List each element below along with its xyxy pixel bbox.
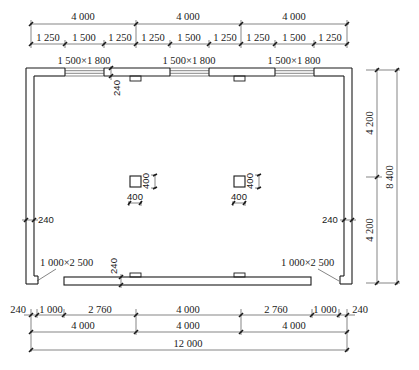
column-2: 400 400 [231,173,261,206]
bottom-overall-dim: 12 000 [174,338,203,349]
top-detail-dim: 1 500 [177,32,201,43]
left-wall-thickness-label: 240 [38,214,54,225]
top-wall-thickness-label: 240 [111,80,122,96]
column-width-label: 400 [127,191,143,202]
left-wall-thickness-dim: 240 [22,214,54,225]
bottom-detail-dim: 2 760 [88,304,112,315]
right-dimension-chain: 4 200 4 200 8 400 [364,68,400,285]
window-label: 1 500×1 800 [162,55,215,66]
right-wall-thickness-dim: 240 [322,214,356,225]
bottom-wall-thickness-dim: 240 [108,258,123,288]
bottom-detail-dim: 240 [10,304,26,315]
bottom-detail-dim: 240 [352,304,368,315]
bottom-detail-dim: 1 000 [313,304,337,315]
top-dim-2: 4 000 [176,11,200,22]
top-detail-dim: 1 250 [213,32,237,43]
top-detail-dim: 1 250 [318,32,342,43]
top-dim-3: 4 000 [282,11,306,22]
bottom-wall-thickness-label: 240 [108,258,119,274]
top-dim-1: 4 000 [71,11,95,22]
right-wall-thickness-label: 240 [322,214,338,225]
column-depth-label: 400 [140,173,151,189]
window-label: 1 500×1 800 [57,55,110,66]
top-detail-dim: 1 250 [36,32,60,43]
windows [65,68,314,76]
bottom-axis-dim: 4 000 [71,320,95,331]
column-width-label: 400 [231,191,247,202]
top-detail-dim: 1 250 [141,32,165,43]
top-detail-dim: 1 250 [246,32,270,43]
top-dimension-chain: 4 000 4 000 4 000 1 250 1 500 1 250 1 25… [29,11,349,48]
right-dim-lower: 4 200 [364,218,375,242]
window-labels: 1 500×1 800 1 500×1 800 1 500×1 800 [57,55,320,66]
right-dim-overall: 8 400 [384,165,395,189]
window-1 [65,68,104,76]
right-dim-upper: 4 200 [364,111,375,135]
window-label: 1 500×1 800 [267,55,320,66]
top-wall-thickness-dim: 240 [109,66,122,96]
window-2 [170,68,209,76]
bottom-axis-dim: 4 000 [176,320,200,331]
floor-plan-drawing: 4 000 4 000 4 000 1 250 1 500 1 250 1 25… [0,0,419,370]
top-detail-dim: 1 250 [108,32,132,43]
top-detail-dim: 1 500 [282,32,306,43]
bottom-detail-dim: 4 000 [176,304,200,315]
column-depth-label: 400 [244,173,255,189]
door-label-left: 1 000×2 500 [40,257,93,268]
bottom-dimension-chain: 240 1 000 2 760 4 000 2 760 1 000 240 4 … [10,304,368,352]
walls [26,68,352,285]
bottom-axis-dim: 4 000 [282,320,306,331]
bottom-detail-dim: 1 000 [39,304,63,315]
door-label-right: 1 000×2 500 [281,257,334,268]
top-detail-dim: 1 500 [72,32,96,43]
window-3 [275,68,314,76]
column-1: 400 400 [127,173,157,206]
bottom-detail-dim: 2 760 [264,304,288,315]
